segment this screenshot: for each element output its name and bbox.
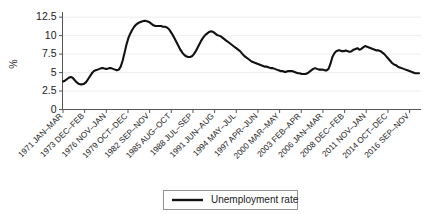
y-tick-label: 7.5 [42,47,57,59]
data-series-unemployment-rate [63,21,419,85]
legend-label-unemployment-rate: Unemployment rate [211,194,299,205]
y-axis-title: % [7,59,19,68]
y-tick-label: 5 [51,66,57,78]
y-tick-label: 12.5 [36,10,57,22]
y-tick-label: 2.5 [42,84,57,96]
y-tick-label: 10 [45,29,57,41]
chart-canvas: 02.557.51012.5 1971 JAN–MAR1973 DEC–FEB1… [0,0,426,214]
x-axis: 1971 JAN–MAR1973 DEC–FEB1976 NOV–JAN1979… [17,110,421,161]
unemployment-rate-chart: 02.557.51012.5 1971 JAN–MAR1973 DEC–FEB1… [0,0,426,214]
series-line-unemployment-rate [63,21,419,85]
legend: Unemployment rate [164,191,299,210]
y-axis: 02.557.51012.5 [36,10,62,114]
